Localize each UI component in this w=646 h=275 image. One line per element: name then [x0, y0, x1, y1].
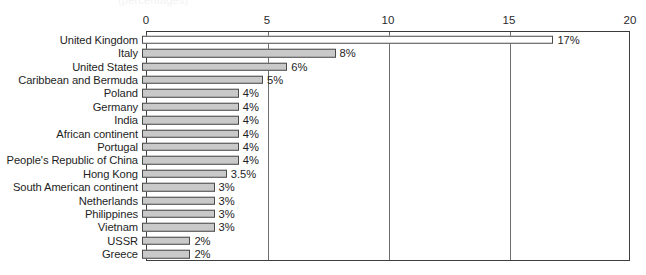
category-label: South American continent	[0, 181, 142, 193]
bar-value-label: 3%	[219, 208, 235, 220]
category-label: United Kingdom	[0, 34, 142, 46]
bar-track: 3%	[142, 194, 646, 207]
bar-row: African continent4%	[0, 127, 646, 140]
bar-row: United Kingdom17%	[0, 33, 646, 46]
bar-row: Poland4%	[0, 87, 646, 100]
category-label: Italy	[0, 47, 142, 59]
bar-track: 8%	[142, 46, 646, 59]
bar-value-label: 4%	[243, 87, 259, 99]
bar[interactable]	[142, 196, 215, 205]
bar-row: Italy8%	[0, 46, 646, 59]
bar-row: Caribbean and Bermuda5%	[0, 73, 646, 86]
bar[interactable]	[142, 49, 336, 58]
bar[interactable]	[142, 116, 239, 125]
bar-track: 4%	[142, 87, 646, 100]
bar-value-label: 3%	[219, 181, 235, 193]
bar[interactable]	[142, 156, 239, 165]
bar[interactable]	[142, 143, 239, 152]
category-label: India	[0, 114, 142, 126]
bar-row: Hong Kong3.5%	[0, 167, 646, 180]
x-axis-tick-label: 5	[264, 14, 270, 26]
category-label: USSR	[0, 235, 142, 247]
x-axis-tick-label: 0	[143, 14, 149, 26]
bar-track: 4%	[142, 140, 646, 153]
category-label: Greece	[0, 248, 142, 260]
bar-value-label: 17%	[557, 34, 579, 46]
bar-row: South American continent3%	[0, 180, 646, 193]
bar-row: Portugal4%	[0, 140, 646, 153]
bar-value-label: 4%	[243, 128, 259, 140]
x-axis: 05101520	[146, 14, 630, 34]
bar-track: 3%	[142, 207, 646, 220]
x-axis-tick-label: 15	[503, 14, 516, 26]
bar-value-label: 6%	[291, 61, 307, 73]
bar[interactable]	[142, 250, 190, 259]
bar-track: 5%	[142, 73, 646, 86]
category-label: Germany	[0, 101, 142, 113]
category-label: Hong Kong	[0, 168, 142, 180]
bar[interactable]	[142, 35, 553, 44]
category-label: Portugal	[0, 141, 142, 153]
bar-row: People's Republic of China4%	[0, 154, 646, 167]
bar-row: Vietnam3%	[0, 221, 646, 234]
bar[interactable]	[142, 102, 239, 111]
bar-row: Greece2%	[0, 248, 646, 261]
bar[interactable]	[142, 129, 239, 138]
bar-value-label: 4%	[243, 154, 259, 166]
bar-track: 17%	[142, 33, 646, 46]
category-label: People's Republic of China	[0, 154, 142, 166]
bar-row: USSR2%	[0, 234, 646, 247]
bar-value-label: 3.5%	[231, 168, 257, 180]
category-label: Philippines	[0, 208, 142, 220]
bar-value-label: 3%	[219, 195, 235, 207]
bar-track: 4%	[142, 100, 646, 113]
bar[interactable]	[142, 210, 215, 219]
bar-value-label: 4%	[243, 141, 259, 153]
category-label: Vietnam	[0, 221, 142, 233]
bar-track: 3%	[142, 180, 646, 193]
bar-row: India4%	[0, 113, 646, 126]
bar-rows: United Kingdom17%Italy8%United States6%C…	[0, 33, 646, 261]
bar-value-label: 2%	[194, 235, 210, 247]
bar[interactable]	[142, 170, 227, 179]
bar-track: 4%	[142, 154, 646, 167]
bar[interactable]	[142, 237, 190, 246]
bar[interactable]	[142, 89, 239, 98]
bar-value-label: 4%	[243, 114, 259, 126]
category-label: Caribbean and Bermuda	[0, 74, 142, 86]
bar-chart: (percentages) 05101520 United Kingdom17%…	[0, 0, 646, 275]
bar-row: Germany4%	[0, 100, 646, 113]
bar-value-label: 3%	[219, 221, 235, 233]
bar[interactable]	[142, 76, 263, 85]
bar-track: 3.5%	[142, 167, 646, 180]
bar[interactable]	[142, 62, 287, 71]
bar-track: 3%	[142, 221, 646, 234]
bar-value-label: 2%	[194, 248, 210, 260]
bar-track: 2%	[142, 248, 646, 261]
category-label: United States	[0, 61, 142, 73]
bar-row: Philippines3%	[0, 207, 646, 220]
x-axis-tick-label: 20	[624, 14, 637, 26]
category-label: Poland	[0, 87, 142, 99]
x-axis-tick-label: 10	[382, 14, 395, 26]
bar-track: 4%	[142, 113, 646, 126]
bar-row: United States6%	[0, 60, 646, 73]
bar-row: Netherlands3%	[0, 194, 646, 207]
bar[interactable]	[142, 183, 215, 192]
category-label: African continent	[0, 128, 142, 140]
bar-track: 6%	[142, 60, 646, 73]
bar-value-label: 4%	[243, 101, 259, 113]
bar-track: 4%	[142, 127, 646, 140]
bar[interactable]	[142, 223, 215, 232]
category-label: Netherlands	[0, 195, 142, 207]
chart-title-remnant: (percentages)	[118, 0, 188, 6]
bar-track: 2%	[142, 234, 646, 247]
bar-value-label: 5%	[267, 74, 283, 86]
bar-value-label: 8%	[340, 47, 356, 59]
